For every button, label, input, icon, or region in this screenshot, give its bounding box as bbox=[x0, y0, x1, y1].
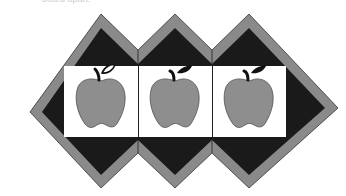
quilt-diagram bbox=[0, 0, 346, 196]
